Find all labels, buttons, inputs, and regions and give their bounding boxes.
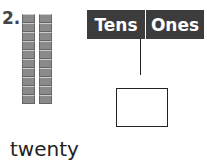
- unit-cube: [39, 14, 52, 23]
- unit-cube: [39, 32, 52, 41]
- problem-number: 2.: [2, 8, 20, 28]
- unit-cube: [22, 77, 35, 86]
- unit-cube: [39, 50, 52, 59]
- unit-cube: [22, 23, 35, 32]
- unit-cube: [39, 77, 52, 86]
- unit-cube: [39, 86, 52, 95]
- tens-rod-2: [39, 14, 53, 104]
- unit-cube: [22, 50, 35, 59]
- tens-rod-1: [22, 14, 36, 104]
- unit-cube: [39, 95, 52, 104]
- tens-header: Tens: [87, 10, 145, 39]
- unit-cube: [22, 95, 35, 104]
- unit-cube: [39, 23, 52, 32]
- unit-cube: [22, 41, 35, 50]
- unit-cube: [22, 86, 35, 95]
- column-divider-line: [140, 39, 141, 75]
- unit-cube: [22, 32, 35, 41]
- number-word: twenty: [10, 137, 79, 161]
- unit-cube: [39, 59, 52, 68]
- unit-cube: [22, 14, 35, 23]
- unit-cube: [39, 41, 52, 50]
- answer-box[interactable]: [116, 88, 168, 127]
- unit-cube: [22, 59, 35, 68]
- unit-cube: [22, 68, 35, 77]
- place-value-header: Tens Ones: [87, 10, 204, 39]
- unit-cube: [39, 68, 52, 77]
- ones-header: Ones: [146, 10, 204, 39]
